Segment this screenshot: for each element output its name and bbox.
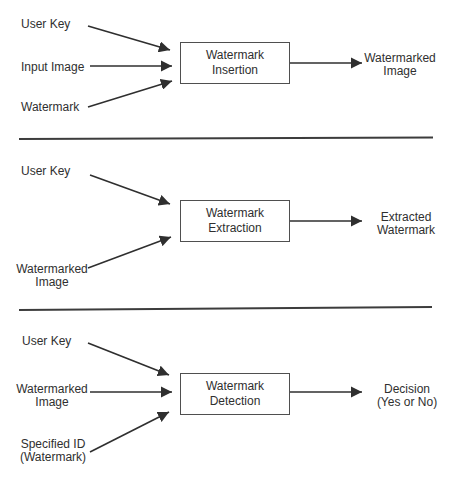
section-divider-2	[19, 307, 432, 310]
process-box-line: Watermark	[206, 48, 264, 63]
output-label-extracted-watermark: Extracted Watermark	[361, 211, 451, 237]
input-label-watermark: Watermark	[21, 101, 79, 114]
output-label-decision: Decision (Yes or No)	[362, 383, 452, 409]
input-label-specified-id: Specified ID (Watermark)	[3, 438, 103, 464]
process-box-watermark-extraction: Watermark Extraction	[180, 200, 290, 242]
process-box-line: Watermark	[206, 206, 264, 221]
input-label-user-key-1: User Key	[21, 18, 70, 31]
input-label-user-key-3: User Key	[22, 335, 71, 348]
process-box-line: Watermark	[206, 379, 264, 394]
output-label-watermarked-image: Watermarked Image	[355, 52, 445, 78]
arrow-watermark-to-insertion	[88, 81, 172, 107]
process-box-watermark-detection: Watermark Detection	[180, 373, 290, 415]
process-box-line: Extraction	[208, 221, 261, 236]
process-box-line: Insertion	[212, 63, 258, 78]
arrow-user-key-to-insertion	[88, 26, 170, 50]
section-divider-1	[19, 138, 433, 140]
input-label-watermarked-image-3: Watermarked Image	[2, 383, 102, 409]
input-label-watermarked-image-2: Watermarked Image	[2, 263, 102, 289]
process-box-watermark-insertion: Watermark Insertion	[180, 42, 290, 84]
arrow-user-key-to-detection	[88, 343, 169, 375]
input-label-user-key-2: User Key	[21, 165, 70, 178]
input-label-input-image: Input Image	[21, 61, 84, 74]
watermarking-diagram: User Key Input Image Watermark Watermark…	[0, 0, 456, 478]
process-box-line: Detection	[210, 394, 261, 409]
arrow-user-key-to-extraction	[90, 175, 170, 204]
